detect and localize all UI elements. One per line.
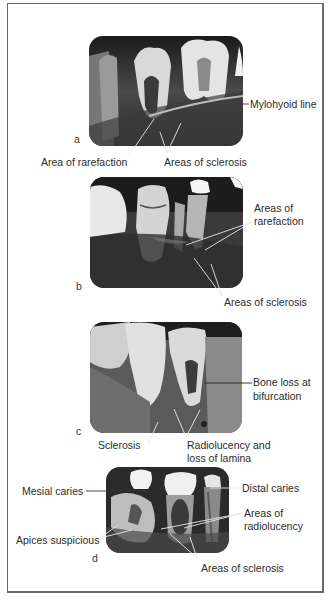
label-mylohyoid-line: Mylohyoid line bbox=[250, 98, 317, 111]
label-apices-suspicious: Apices suspicious bbox=[16, 534, 99, 547]
label-area-of-rarefaction: Area of rarefaction bbox=[41, 156, 127, 169]
label-bone-loss-line2: bifurcation bbox=[253, 390, 301, 403]
label-mesial-caries: Mesial caries bbox=[22, 485, 83, 498]
radiograph-panel-a bbox=[89, 36, 243, 146]
panel-letter-a: a bbox=[74, 133, 80, 145]
label-areas-of-radiolucency-line1: Areas of bbox=[244, 507, 283, 520]
panel-letter-b: b bbox=[76, 280, 82, 292]
label-areas-of-rarefaction-line2: rarefaction bbox=[254, 215, 304, 228]
label-areas-of-radiolucency-line2: radiolucency bbox=[244, 520, 303, 533]
panel-letter-d: d bbox=[92, 552, 98, 564]
label-areas-of-sclerosis-b: Areas of sclerosis bbox=[224, 296, 307, 309]
label-sclerosis: Sclerosis bbox=[98, 439, 141, 452]
label-radiolucency-line1: Radiolucency and bbox=[187, 439, 270, 452]
label-areas-of-sclerosis-a: Areas of sclerosis bbox=[164, 156, 247, 169]
label-radiolucency-line2: loss of lamina bbox=[187, 452, 251, 465]
label-distal-caries: Distal caries bbox=[242, 482, 299, 495]
label-areas-of-sclerosis-d: Areas of sclerosis bbox=[201, 562, 284, 575]
radiograph-panel-b bbox=[90, 177, 243, 288]
label-bone-loss-line1: Bone loss at bbox=[253, 376, 311, 389]
panel-letter-c: c bbox=[76, 425, 81, 437]
radiograph-panel-d bbox=[106, 467, 229, 553]
radiograph-panel-c bbox=[90, 322, 242, 433]
label-areas-of-rarefaction-line1: Areas of bbox=[254, 202, 293, 215]
